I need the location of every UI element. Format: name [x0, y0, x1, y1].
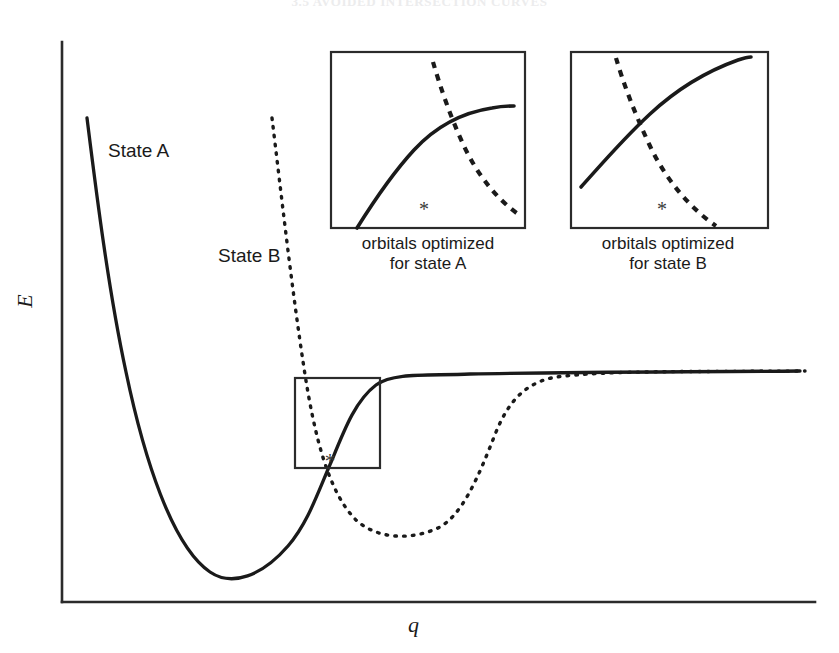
inset-b-frame — [571, 52, 768, 228]
inset-a-group: * — [331, 52, 525, 228]
x-axis-label: q — [408, 612, 419, 638]
inset-a-caption-line-1: orbitals optimized — [328, 234, 528, 254]
curve-label-state-a: State A — [108, 140, 169, 162]
y-axis-label: E — [12, 294, 38, 307]
potential-energy-curve-diagram: * * * — [0, 0, 839, 653]
curve-label-state-b: State B — [218, 245, 280, 267]
inset-b-caption: orbitals optimized for state B — [568, 234, 768, 274]
crossing-point-asterisk: * — [325, 449, 336, 473]
inset-b-caption-line-1: orbitals optimized — [568, 234, 768, 254]
inset-a-caption-line-2: for state A — [328, 254, 528, 274]
figure-container: 3.5 Avoided intersection curves * * — [0, 0, 839, 653]
inset-b-group: * — [571, 52, 768, 228]
inset-a-caption: orbitals optimized for state A — [328, 234, 528, 274]
inset-a-asterisk: * — [419, 198, 429, 220]
inset-b-asterisk: * — [657, 198, 667, 220]
inset-b-caption-line-2: for state B — [568, 254, 768, 274]
